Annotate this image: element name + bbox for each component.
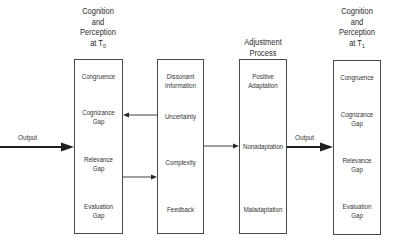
heading-line: Cognition [72,6,125,17]
output-label: Output [295,133,314,142]
input-output-label: Output [18,133,37,142]
heading-cognition-t1: Cognition and Perception at T1 [330,6,385,51]
item-relevance-gap: Relevance Gap [78,155,119,173]
item-congruence: Congruence [337,73,377,82]
item-cognizance-gap: Cognizance Gap [337,110,377,128]
heading-line-time: at T0 [72,38,125,52]
uncertainty-to-cognizance-arrow [123,113,157,118]
item-congruence: Congruence [78,72,119,81]
box-cognition-t1: Congruence Cognizance Gap Relevance Gap … [333,60,381,235]
item-evaluation-gap: Evaluation Gap [78,202,119,220]
item-evaluation-gap: Evaluation Gap [337,202,377,220]
box-cognition-t0: Congruence Cognizance Gap Relevance Gap … [74,59,123,234]
box-information: Dissonant Information Uncertainty Comple… [157,59,204,234]
heading-line: Perception [72,27,125,38]
heading-adjustment-process: Adjustment Process [236,37,291,58]
input-arrow [0,143,74,152]
item-positive-adaptation: Positive Adaptation [243,72,283,90]
item-maladaptation: Maladaptation [243,205,283,214]
output-arrow [287,143,333,152]
item-cognizance-gap: Cognizance Gap [78,108,119,126]
heading-line: Process [236,48,291,59]
heading-line: and [72,17,125,28]
item-complexity: Complexity [161,158,201,167]
item-relevance-gap: Relevance Gap [337,156,377,174]
heading-cognition-t0: Cognition and Perception at T0 [72,6,125,51]
item-nonadaptation: Nonadaptation [243,142,283,151]
heading-line-time: at T1 [330,38,385,52]
heading-line: Cognition [330,6,385,17]
time-subscript: 1 [362,43,365,49]
information-to-nonadaptation-arrow [204,144,239,149]
heading-line: Adjustment [236,37,291,48]
box-adjustment-process: Positive Adaptation Nonadaptation Malada… [239,59,287,234]
heading-line: Perception [330,27,385,38]
item-dissonant-information: Dissonant Information [161,72,201,90]
time-subscript: 0 [103,43,106,49]
relevance-to-complexity-arrow [123,175,157,180]
item-feedback: Feedback [161,205,201,214]
item-uncertainty: Uncertainty [161,112,201,121]
heading-line: and [330,17,385,28]
